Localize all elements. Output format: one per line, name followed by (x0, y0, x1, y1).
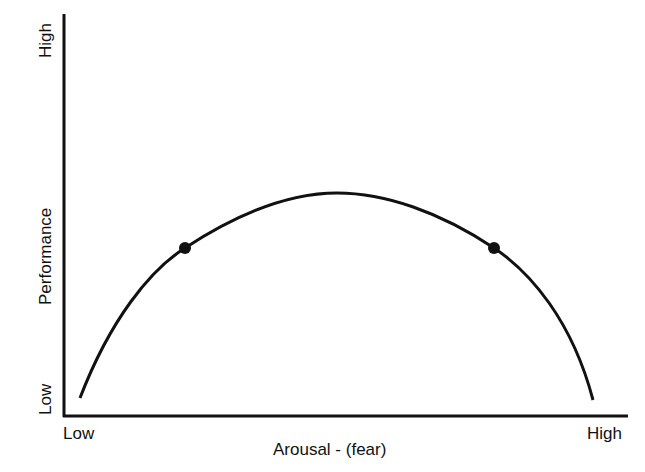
performance-curve (80, 193, 593, 400)
x-tick-high: High (587, 424, 622, 444)
marker-point-left (179, 242, 191, 254)
x-tick-low: Low (63, 424, 94, 444)
y-tick-low: Low (36, 384, 56, 415)
chart-canvas (0, 0, 645, 472)
y-axis-label: Performance (36, 208, 56, 305)
x-axis-label: Arousal - (fear) (273, 440, 386, 460)
marker-point-right (488, 242, 500, 254)
y-tick-high: High (36, 23, 56, 58)
